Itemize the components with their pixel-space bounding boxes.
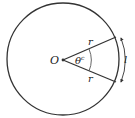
angle-arc xyxy=(89,49,91,71)
center-point xyxy=(62,59,65,62)
radius-label-bottom: r xyxy=(88,73,94,84)
center-label: O xyxy=(50,54,59,67)
radius-label-top: r xyxy=(88,36,94,47)
angle-label: θc xyxy=(75,54,85,66)
arc-length-label: l xyxy=(124,54,127,65)
sector-diagram: O r r θc l xyxy=(0,0,135,118)
